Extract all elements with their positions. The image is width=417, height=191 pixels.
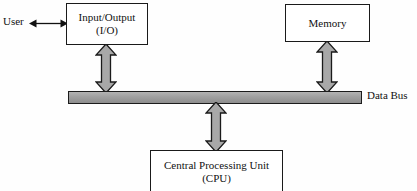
computer-architecture-diagram: User Input/Output (I/O) Memory Data Bus …	[0, 0, 417, 191]
input-output-box: Input/Output (I/O)	[66, 3, 148, 45]
io-label-line1: Input/Output	[79, 11, 136, 24]
user-label: User	[3, 15, 24, 27]
memory-to-bus-double-arrow	[316, 41, 338, 93]
cpu-label-line2: (CPU)	[202, 172, 231, 185]
memory-box: Memory	[285, 4, 370, 42]
io-label-line2: (I/O)	[96, 24, 118, 37]
data-bus-label: Data Bus	[367, 89, 408, 101]
bus-to-cpu-double-arrow	[205, 102, 227, 152]
cpu-label-line1: Central Processing Unit	[164, 159, 269, 172]
io-to-bus-double-arrow	[95, 44, 117, 93]
user-to-io-double-arrow	[29, 15, 68, 32]
memory-label: Memory	[309, 17, 347, 30]
cpu-box: Central Processing Unit (CPU)	[150, 150, 283, 191]
